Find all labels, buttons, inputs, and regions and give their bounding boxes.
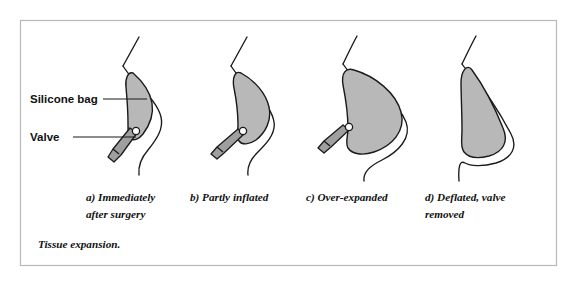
caption-panel-d-line2: removed bbox=[425, 208, 465, 220]
caption-panel-c-line1: c) Over-expanded bbox=[306, 191, 388, 204]
label-valve: Valve bbox=[30, 131, 59, 143]
diagram-canvas: Silicone bag Valve a) Immediately after … bbox=[0, 0, 577, 291]
caption-panel-a-line1: a) Immediately bbox=[86, 191, 155, 204]
valve-joint-c bbox=[345, 123, 352, 130]
figure-title: Tissue expansion. bbox=[38, 238, 120, 250]
label-silicone-bag: Silicone bag bbox=[30, 93, 98, 105]
valve-joint-a bbox=[132, 127, 139, 134]
caption-panel-d-line1: d) Deflated, valve bbox=[425, 191, 505, 204]
caption-panel-a-line2: after surgery bbox=[86, 208, 145, 220]
valve-joint-b bbox=[239, 127, 246, 134]
tissue-expansion-figure: Silicone bag Valve a) Immediately after … bbox=[0, 0, 577, 291]
caption-panel-b-line1: b) Partly inflated bbox=[190, 191, 269, 204]
